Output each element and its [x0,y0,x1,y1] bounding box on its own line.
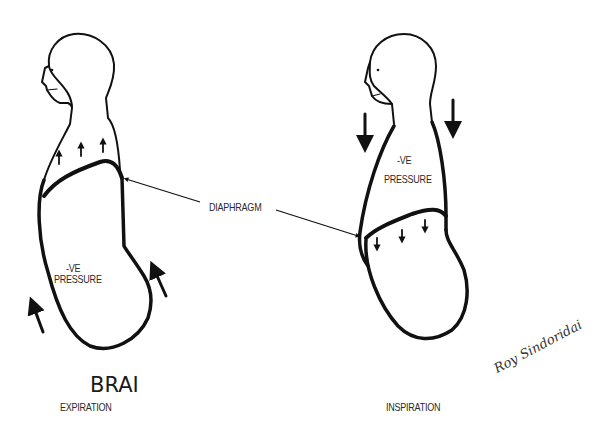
arrow-back-left [154,269,166,296]
diaphragm-pointer-right [276,210,358,236]
eye-right [377,69,380,72]
diaphragm-label: DIAPHRAGM [209,202,261,213]
diaphragm-pointer-left [126,179,200,202]
brai-title: BRAI [90,375,139,396]
abdomen-outline-right [366,230,467,339]
expiration-caption: EXPIRATION [60,402,112,413]
pressure-label-left-line2: PRESSURE [54,274,102,285]
arrow-front-left [33,305,43,332]
pressure-label-right-line1: -VE [397,155,411,166]
inspiration-figure [359,34,467,339]
diaphragm-left [44,161,122,196]
head-outline-right [370,34,436,122]
pressure-label-right-line2: PRESSURE [384,174,432,185]
diaphragm-right [366,210,446,238]
inspiration-caption: INSPIRATION [386,402,440,413]
eye-left [51,69,54,72]
expiration-figure [33,34,166,348]
abdomen-outline-left [39,178,151,348]
